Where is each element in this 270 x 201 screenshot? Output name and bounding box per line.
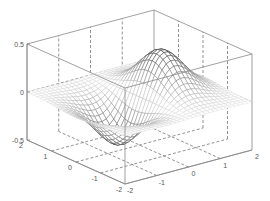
z-tick-label: 0 [20, 89, 24, 96]
y-tick-label: 1 [44, 153, 48, 160]
x-tick-label: 2 [255, 153, 259, 160]
x-tick-label: -1 [159, 179, 165, 186]
z-tick-label: 0.5 [14, 41, 24, 48]
surface-plot: -0.500.5-2-1012-2-1012 [0, 0, 270, 201]
y-tick-label: 0 [68, 164, 72, 171]
y-tick-label: -1 [91, 175, 97, 182]
box-edge [27, 10, 154, 44]
y-tick-label: 2 [19, 142, 23, 149]
x-tick-label: 0 [192, 170, 196, 177]
axis-y [27, 140, 125, 184]
x-tick-label: 1 [223, 162, 227, 169]
axis-x [125, 150, 252, 184]
y-tick-label: -2 [116, 186, 122, 193]
x-tick-label: -2 [127, 187, 133, 194]
